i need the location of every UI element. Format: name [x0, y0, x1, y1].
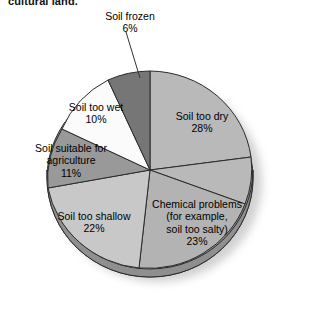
slice-label-line: Soil too dry: [152, 110, 252, 122]
slice-label-soil-suitable-for-agriculture: Soil suitable for agriculture 11%: [16, 142, 126, 179]
slice-label-chemical-problems: Chemical problems (for example, soil too…: [138, 198, 256, 248]
slice-label-soil-frozen: Soil frozen 6%: [78, 10, 182, 35]
chart-canvas: cultural land. Soil frozen: [0, 0, 311, 326]
slice-percent: 10%: [46, 113, 146, 125]
slice-label-line: soil too salty): [138, 223, 256, 235]
slice-label-line: Soil frozen: [78, 10, 182, 22]
slice-percent: 28%: [152, 122, 252, 134]
slice-percent: 22%: [38, 222, 150, 234]
slice-label-line: Chemical problems: [138, 198, 256, 210]
slice-label-line: Soil suitable for: [16, 142, 126, 154]
slice-label-soil-too-dry: Soil too dry 28%: [152, 110, 252, 135]
slice-label-line: Soil too shallow: [38, 210, 150, 222]
slice-label-line: Soil too wet: [46, 101, 146, 113]
slice-label-soil-too-wet: Soil too wet 10%: [46, 101, 146, 126]
slice-percent: 11%: [16, 167, 126, 179]
slice-percent: 6%: [78, 22, 182, 34]
slice-label-line: agriculture: [16, 154, 126, 166]
slice-percent: 23%: [138, 235, 256, 247]
slice-label-line: (for example,: [138, 210, 256, 222]
soil-frozen-leader-line: [126, 32, 140, 78]
slice-label-soil-too-shallow: Soil too shallow 22%: [38, 210, 150, 235]
